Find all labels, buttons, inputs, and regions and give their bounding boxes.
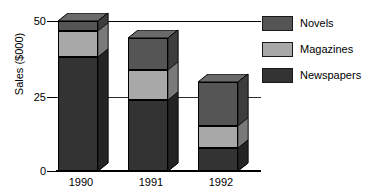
segment-1991-novels[interactable] [128,38,168,70]
bar-group-1990[interactable] [58,0,108,172]
x-tick-label-1991: 1991 [123,176,179,188]
y-tick-dash-25 [47,97,56,98]
segment-1992-newspapers[interactable] [198,148,238,171]
segment-1991-newspapers[interactable] [128,100,168,171]
sales-stacked-bar-chart: Sales ($000) 50 25 0 1990 [0,0,368,194]
y-tick-label-0: 0 [16,166,46,176]
segment-1992-magazines[interactable] [198,126,238,148]
legend-label-newspapers: Newspapers [300,68,361,83]
segment-1991-magazines[interactable] [128,70,168,100]
legend: Novels Magazines Newspapers [262,14,366,92]
x-tick-label-1990: 1990 [53,176,109,188]
legend-item-newspapers[interactable]: Newspapers [262,66,366,92]
legend-label-novels: Novels [300,16,334,31]
legend-item-novels[interactable]: Novels [262,14,366,40]
x-tick-label-1992: 1992 [193,176,249,188]
bar-1990-side-face [96,12,110,174]
y-tick-dash-0 [47,171,56,172]
legend-item-magazines[interactable]: Magazines [262,40,366,66]
legend-swatch-newspapers [262,68,293,83]
segment-1990-newspapers[interactable] [58,57,98,171]
y-tick-label-50: 50 [16,16,46,26]
segment-1992-novels[interactable] [198,82,238,126]
bar-group-1992[interactable] [198,0,248,172]
bar-1991-side-face [166,29,180,174]
y-tick-dash-50 [47,21,56,22]
segment-1990-novels[interactable] [58,21,98,31]
legend-swatch-novels [262,16,293,31]
bar-group-1991[interactable] [128,0,178,172]
y-tick-label-25: 25 [16,92,46,102]
legend-label-magazines: Magazines [300,42,353,57]
segment-1990-magazines[interactable] [58,31,98,57]
bar-1992-side-face [236,73,250,174]
legend-swatch-magazines [262,42,293,57]
